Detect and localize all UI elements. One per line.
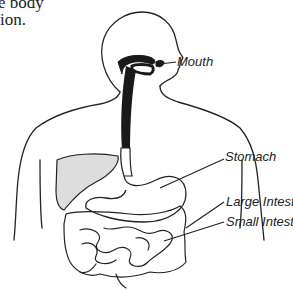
- label-stomach: Stomach: [225, 150, 276, 164]
- mouth-cavity: [118, 55, 164, 74]
- digestive-system-illustration: [0, 0, 293, 290]
- leader-small-intestine: [164, 222, 224, 241]
- label-mouth: Mouth: [177, 55, 213, 69]
- esophagus: [121, 66, 136, 150]
- head-outline: [102, 12, 183, 92]
- leader-stomach: [160, 159, 224, 188]
- label-small-intestine: Small Intestine: [226, 215, 293, 229]
- label-large-intestine: Large Intestine: [226, 195, 293, 209]
- small-intestine: [80, 227, 172, 267]
